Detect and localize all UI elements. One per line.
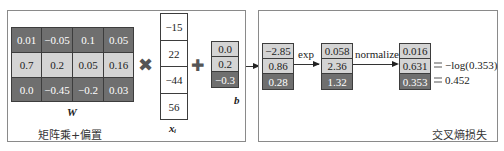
- loss-value-text: 0.452: [445, 74, 470, 86]
- weight-cell: 0.16: [103, 52, 134, 78]
- bias-cell: 0.2: [211, 56, 239, 72]
- bias-vector-label: b: [234, 94, 240, 106]
- loss-expression: −log(0.353): [434, 59, 497, 71]
- loss-expression-text: −log(0.353): [445, 59, 497, 71]
- probability-cell: 0.016: [399, 43, 431, 59]
- exp-cell: 0.058: [321, 43, 353, 59]
- weight-cell: 0.1: [72, 27, 104, 53]
- probability-cell: 0.631: [399, 58, 431, 74]
- input-cell: 56: [160, 93, 188, 120]
- normalize-label: normalize: [355, 48, 399, 60]
- exp-label: exp: [298, 48, 314, 60]
- weight-cell: 0.01: [11, 27, 42, 53]
- multiply-icon: ✖: [138, 54, 153, 75]
- weight-cell: −0.45: [41, 77, 73, 102]
- weight-cell: 0.0: [11, 77, 42, 102]
- plus-icon: ✚: [191, 56, 204, 75]
- loss-value: 0.452: [434, 74, 470, 86]
- weight-cell: −0.05: [41, 27, 73, 53]
- weight-cell: 0.2: [41, 52, 73, 78]
- probability-cell: 0.353: [399, 73, 431, 90]
- weight-cell: −0.2: [72, 77, 104, 102]
- bias-cell: 0.0: [211, 41, 239, 57]
- score-cell: −2.85: [262, 43, 294, 59]
- bias-cell: −0.3: [211, 71, 239, 88]
- equals-icon: [434, 77, 442, 83]
- weight-cell: 0.7: [11, 52, 42, 78]
- left-panel-caption: 矩阵乘+偏置: [38, 126, 102, 142]
- input-cell: 22: [160, 40, 188, 67]
- right-panel-caption: 交叉熵损失: [432, 126, 487, 142]
- exp-cell: 2.36: [321, 58, 353, 74]
- equals-icon: [434, 62, 442, 68]
- weight-cell: 0.05: [72, 52, 104, 78]
- weight-cell: 0.03: [103, 77, 134, 102]
- score-cell: 0.28: [262, 73, 294, 90]
- weight-cell: 0.05: [103, 27, 134, 53]
- weight-matrix-label: W: [67, 106, 77, 118]
- input-cell: −15: [160, 13, 188, 41]
- arrow-right-icon: [313, 61, 320, 67]
- input-cell: −44: [160, 66, 188, 94]
- input-vector-label: xᵢ: [169, 122, 176, 134]
- normalize-arrow-line: [353, 64, 397, 65]
- score-cell: 0.86: [262, 58, 294, 74]
- arrow-right-icon: [392, 61, 399, 67]
- exp-cell: 1.32: [321, 73, 353, 90]
